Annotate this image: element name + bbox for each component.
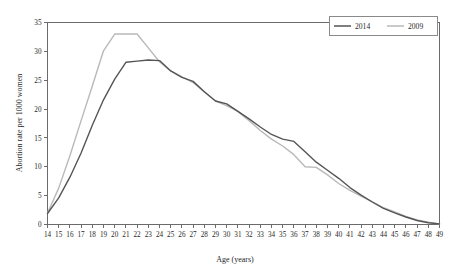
x-tick-label: 31 <box>234 231 242 239</box>
x-tick-label: 25 <box>167 231 175 239</box>
x-tick-label: 33 <box>257 231 265 239</box>
x-tick-label: 34 <box>268 231 276 239</box>
x-tick-label: 47 <box>414 231 422 239</box>
x-tick-label: 30 <box>223 231 231 239</box>
x-tick-label: 35 <box>279 231 287 239</box>
x-tick-label: 40 <box>335 231 343 239</box>
x-tick-label: 17 <box>78 231 86 239</box>
x-axis-title: Age (years) <box>216 255 254 264</box>
x-tick-label: 16 <box>66 231 74 239</box>
y-tick-label: 20 <box>34 106 42 114</box>
legend-label-2014: 2014 <box>355 22 370 31</box>
x-tick-label: 38 <box>313 231 321 239</box>
x-tick-label: 26 <box>178 231 186 239</box>
x-tick-label: 15 <box>55 231 63 239</box>
y-tick-label: 25 <box>34 77 42 85</box>
data-series <box>48 34 440 224</box>
x-axis-tick-labels: 1415161718192021222324252627282930313233… <box>44 231 444 239</box>
abortion-rate-line-chart: 05101520253035 1415161718192021222324252… <box>0 0 452 273</box>
axes <box>48 23 440 225</box>
y-tick-label: 0 <box>38 221 42 229</box>
y-axis-tick-labels: 05101520253035 <box>34 19 42 229</box>
y-tick-label: 35 <box>34 19 42 27</box>
x-tick-label: 46 <box>402 231 410 239</box>
x-tick-label: 28 <box>201 231 209 239</box>
x-tick-label: 42 <box>358 231 366 239</box>
y-tick-label: 10 <box>34 163 42 171</box>
x-tick-label: 43 <box>369 231 377 239</box>
x-tick-label: 27 <box>190 231 198 239</box>
x-tick-label: 44 <box>380 231 388 239</box>
y-axis-title: Abortion rate per 1000 women <box>15 74 24 173</box>
x-tick-label: 24 <box>156 231 164 239</box>
y-tick-label: 5 <box>38 192 42 200</box>
x-tick-label: 32 <box>246 231 254 239</box>
x-tick-label: 49 <box>436 231 444 239</box>
x-tick-label: 36 <box>290 231 298 239</box>
x-tick-label: 39 <box>324 231 332 239</box>
x-tick-label: 20 <box>111 231 119 239</box>
x-tick-label: 18 <box>89 231 97 239</box>
chart-canvas: 05101520253035 1415161718192021222324252… <box>0 0 452 273</box>
x-tick-label: 37 <box>302 231 310 239</box>
x-tick-label: 23 <box>145 231 153 239</box>
x-tick-label: 29 <box>212 231 220 239</box>
x-tick-label: 41 <box>346 231 354 239</box>
series-line-2009 <box>48 34 440 224</box>
series-line-2014 <box>48 60 440 224</box>
x-tick-label: 48 <box>425 231 433 239</box>
x-tick-label: 45 <box>391 231 399 239</box>
y-tick-label: 30 <box>34 48 42 56</box>
chart-legend: 20142009 <box>329 17 437 36</box>
y-tick-label: 15 <box>34 135 42 143</box>
x-tick-label: 22 <box>134 231 142 239</box>
x-tick-label: 14 <box>44 231 52 239</box>
x-tick-label: 21 <box>122 231 130 239</box>
legend-label-2009: 2009 <box>408 22 423 31</box>
x-tick-label: 19 <box>100 231 108 239</box>
